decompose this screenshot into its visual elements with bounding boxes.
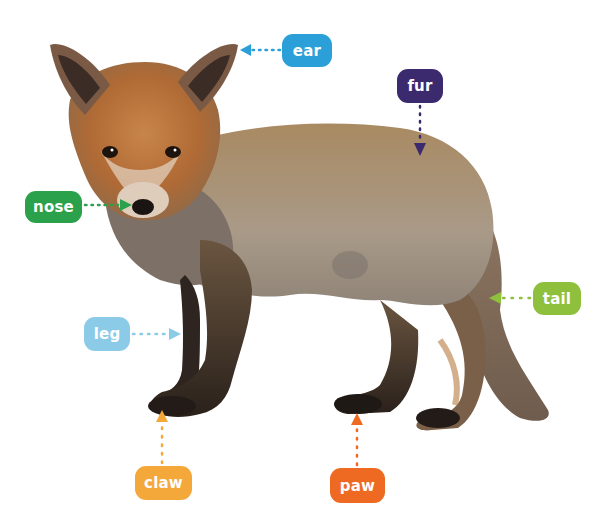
label-tail: tail (533, 282, 581, 315)
leg-arrow-icon (169, 328, 181, 340)
ear-arrow-icon (240, 44, 251, 56)
label-paw: paw (330, 468, 385, 503)
paw-arrow-icon (351, 413, 363, 425)
leader-lines (0, 0, 604, 526)
fox-anatomy-diagram: ear fur nose leg tail claw paw (0, 0, 604, 526)
fur-arrow-icon (414, 143, 426, 156)
label-nose: nose (25, 191, 82, 223)
label-leg: leg (84, 317, 130, 351)
nose-arrow-icon (120, 199, 132, 211)
label-fur: fur (397, 69, 443, 103)
label-claw: claw (135, 466, 192, 500)
claw-arrow-icon (156, 410, 168, 422)
label-ear: ear (282, 34, 332, 67)
tail-arrow-icon (489, 292, 501, 304)
